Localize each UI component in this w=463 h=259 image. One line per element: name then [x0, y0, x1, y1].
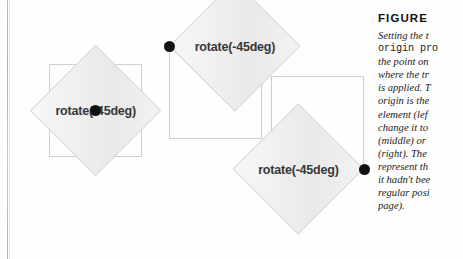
figure-illustration-area: rotate(-45deg) rotate(-45deg) rotate(-45…	[0, 0, 370, 259]
caption-line: is applied. T	[378, 81, 463, 94]
caption-line: (right). The	[378, 147, 463, 160]
figure-heading: FIGURE	[378, 12, 463, 24]
caption-line: (middle) or	[378, 134, 463, 147]
caption-line: regular posi	[378, 186, 463, 199]
figure-caption-text: Setting the t origin pro the point on wh…	[378, 29, 463, 212]
page-scan-background: rotate(-45deg) rotate(-45deg) rotate(-45…	[0, 0, 463, 259]
rotate-label-right: rotate(-45deg)	[258, 162, 339, 176]
caption-line: origin is the	[378, 94, 463, 107]
caption-line: represent th	[378, 160, 463, 173]
caption-line: change it to	[378, 121, 463, 134]
caption-line: origin pro	[378, 42, 463, 55]
caption-line: the point on	[378, 55, 463, 68]
caption-line: Setting the t	[378, 29, 463, 42]
caption-line: it hadn't bee	[378, 173, 463, 186]
origin-dot-middle	[164, 41, 175, 52]
figure-caption-column: FIGURE Setting the t origin pro the poin…	[378, 12, 463, 252]
origin-dot-left	[90, 105, 101, 116]
caption-line: element (lef	[378, 108, 463, 121]
origin-dot-right	[359, 164, 370, 175]
caption-line: where the tr	[378, 68, 463, 81]
caption-line: page).	[378, 199, 463, 212]
